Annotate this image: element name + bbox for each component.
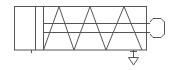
rod-end-icon (150, 19, 165, 38)
exhaust-triangle-icon (129, 58, 139, 66)
cylinder-diagram (0, 0, 180, 70)
spring-icon (44, 7, 143, 51)
